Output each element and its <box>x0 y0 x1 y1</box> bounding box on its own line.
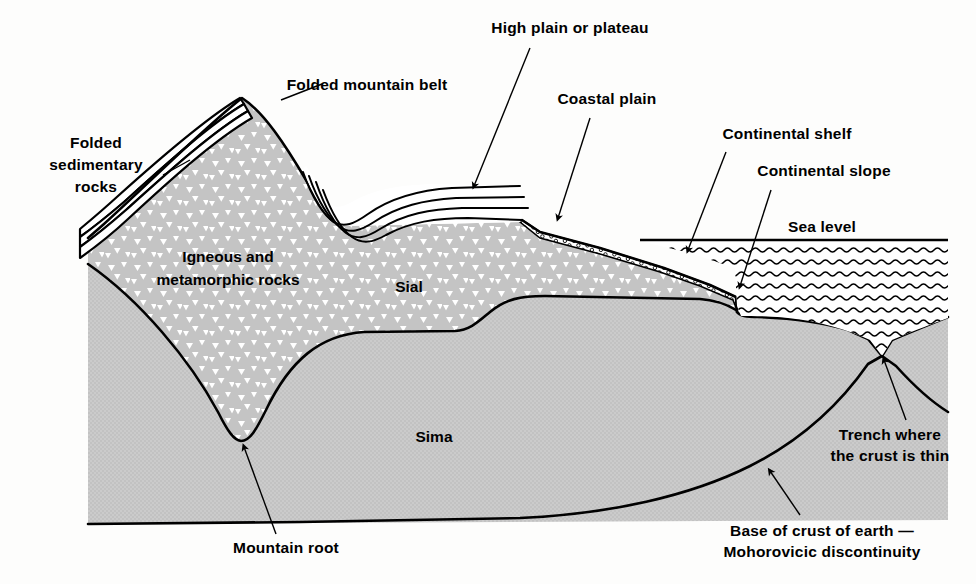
label-sial: Sial <box>395 278 423 295</box>
crust-cross-section-figure: Folded sedimentary rocks Folded mountain… <box>0 0 976 584</box>
label-igneous-metamorphic-line1: Igneous and <box>182 248 273 265</box>
label-sima: Sima <box>415 428 452 445</box>
diagram-canvas: Folded sedimentary rocks Folded mountain… <box>0 0 976 584</box>
label-base-of-crust-line1: Base of crust of earth — <box>730 522 914 539</box>
label-continental-slope: Continental slope <box>757 162 891 179</box>
leader-continental-shelf <box>688 152 726 250</box>
label-trench-line2: the crust is thin <box>831 447 950 464</box>
label-folded-mountain-belt: Folded mountain belt <box>287 76 448 93</box>
label-igneous-metamorphic-line2: metamorphic rocks <box>157 271 300 288</box>
label-trench-line1: Trench where <box>839 426 942 443</box>
label-sea-level: Sea level <box>788 218 856 235</box>
leader-coastal-plain <box>558 118 590 218</box>
label-coastal-plain: Coastal plain <box>557 90 656 107</box>
label-folded-sedimentary-rocks-line1: Folded <box>70 134 122 151</box>
label-folded-sedimentary-rocks-line2: sedimentary <box>49 156 143 173</box>
label-continental-shelf: Continental shelf <box>722 125 852 142</box>
label-base-of-crust: Base of crust of earth — Mohorovicic dis… <box>723 522 920 560</box>
label-high-plain-or-plateau: High plain or plateau <box>491 19 649 36</box>
label-mountain-root: Mountain root <box>233 539 339 556</box>
label-base-of-crust-line2: Mohorovicic discontinuity <box>723 543 920 560</box>
label-folded-sedimentary-rocks-line3: rocks <box>75 178 117 195</box>
leader-high-plain-or-plateau <box>474 48 530 186</box>
